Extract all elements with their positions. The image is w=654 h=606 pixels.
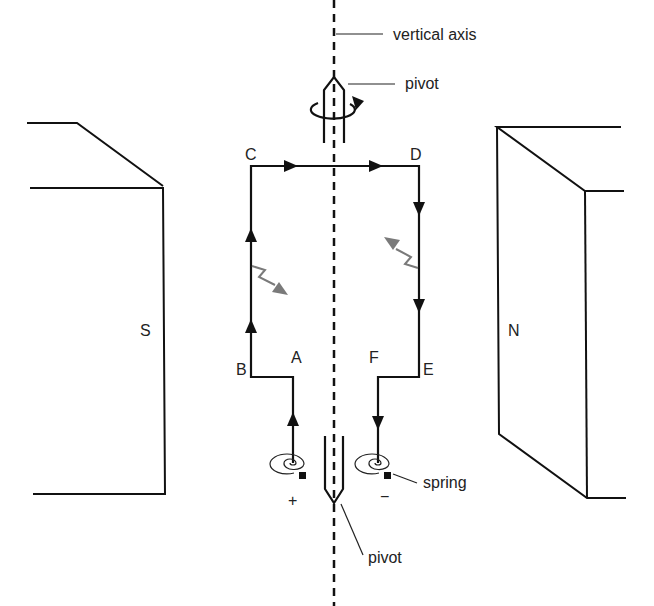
magnet-n-label: N — [508, 322, 520, 339]
spring-label: spring — [423, 474, 467, 491]
top-pivot: pivot — [311, 75, 439, 143]
current-arrow-icon — [284, 160, 298, 172]
point-a-label: A — [291, 349, 302, 366]
point-d-label: D — [410, 146, 422, 163]
terminal-square-icon — [384, 472, 391, 479]
current-arrow-icon — [245, 319, 257, 333]
current-arrow-icon — [413, 202, 425, 216]
motor-diagram: S N vertical axis pivot C D B A — [0, 0, 654, 606]
current-arrow-icon — [413, 299, 425, 313]
point-f-label: F — [369, 349, 379, 366]
pivot-bottom-label: pivot — [368, 549, 402, 566]
current-arrow-icon — [245, 228, 257, 242]
north-magnet: N — [497, 127, 626, 498]
terminal-square-icon — [299, 472, 306, 479]
point-e-label: E — [423, 361, 434, 378]
terminal-negative-label: − — [380, 488, 389, 505]
point-b-label: B — [236, 361, 247, 378]
spring-left: + — [270, 454, 306, 509]
coil: C D B A F E — [236, 146, 434, 463]
pivot-top-label: pivot — [405, 75, 439, 92]
spring-right: − spring — [355, 454, 467, 505]
vertical-axis-label: vertical axis — [393, 26, 477, 43]
current-arrow-icon — [369, 160, 383, 172]
force-arrowhead-icon — [384, 237, 400, 250]
terminal-positive-label: + — [288, 492, 297, 509]
current-arrow-icon — [287, 412, 299, 426]
current-arrow-icon — [372, 416, 384, 430]
south-magnet: S — [27, 123, 165, 494]
point-c-label: C — [245, 146, 257, 163]
magnet-s-label: S — [140, 322, 151, 339]
force-arrow-left — [252, 266, 288, 295]
force-arrow-right — [384, 237, 418, 268]
